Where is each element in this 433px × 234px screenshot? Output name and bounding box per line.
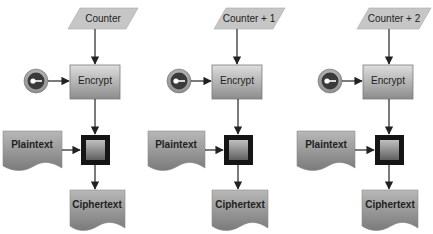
encrypt-block: Encrypt: [212, 65, 262, 99]
key-icon: [24, 69, 48, 93]
plaintext-label: Plaintext: [305, 139, 347, 150]
counter-input: Counter: [68, 8, 138, 29]
ciphertext-doc: Ciphertext: [70, 190, 125, 231]
counter-label: Counter + 2: [368, 13, 421, 24]
xor-block: [81, 135, 110, 165]
plaintext-doc: Plaintext: [3, 131, 62, 171]
encrypt-block: Encrypt: [363, 65, 413, 99]
encrypt-label: Encrypt: [371, 75, 405, 86]
ciphertext-label: Ciphertext: [215, 199, 265, 210]
column-2: Counter + 1 Encrypt Plaintext Ciphertext: [148, 8, 285, 231]
ctr-mode-diagram: Counter Encrypt Plaintext Ciphertext: [0, 0, 433, 234]
counter-label: Counter: [85, 13, 121, 24]
ciphertext-label: Ciphertext: [72, 199, 122, 210]
counter-input: Counter + 2: [357, 8, 431, 29]
encrypt-block: Encrypt: [70, 65, 120, 99]
plaintext-label: Plaintext: [155, 139, 197, 150]
xor-block: [224, 135, 253, 165]
encrypt-label: Encrypt: [78, 75, 112, 86]
column-3: Counter + 2 Encrypt Plaintext Ciphertext: [297, 8, 431, 231]
key-icon: [167, 69, 191, 93]
plaintext-doc: Plaintext: [297, 131, 355, 171]
plaintext-label: Plaintext: [11, 139, 53, 150]
counter-label: Counter + 1: [223, 13, 276, 24]
ciphertext-doc: Ciphertext: [212, 190, 268, 231]
encrypt-label: Encrypt: [220, 75, 254, 86]
key-icon: [318, 69, 342, 93]
counter-input: Counter + 1: [214, 8, 285, 29]
plaintext-doc: Plaintext: [148, 131, 205, 171]
xor-block: [375, 135, 404, 165]
ciphertext-doc: Ciphertext: [362, 190, 418, 231]
column-1: Counter Encrypt Plaintext Ciphertext: [3, 8, 138, 231]
ciphertext-label: Ciphertext: [365, 199, 415, 210]
